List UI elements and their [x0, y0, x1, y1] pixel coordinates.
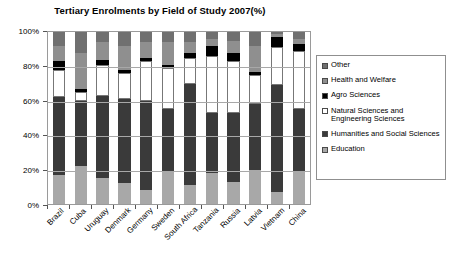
legend-label: Health and Welfare: [331, 76, 396, 84]
bar-segment: [293, 51, 305, 109]
bar-segment: [140, 190, 152, 204]
bar-segment: [271, 192, 283, 204]
x-label-slot: South Africa: [179, 206, 201, 266]
bars-layer: [48, 32, 310, 204]
bar-segment: [227, 41, 239, 53]
legend-item[interactable]: Health and Welfare: [322, 76, 441, 84]
y-tick-label: 40%: [23, 131, 39, 140]
bar-segment: [184, 84, 196, 185]
y-tick-label: 80%: [23, 61, 39, 70]
bar-segment: [75, 101, 87, 166]
bar-segment: [206, 32, 218, 39]
bar-segment: [162, 171, 174, 204]
bar-segment: [206, 173, 218, 204]
legend-label: Natural Sciences and Engineering Science…: [331, 107, 441, 123]
bar-segment: [271, 37, 283, 47]
chart-container: Tertiary Enrolments by Field of Study 20…: [0, 0, 466, 269]
x-axis-label-brazil: Brazil: [45, 207, 66, 228]
chart-legend: OtherHealth and WelfareAgro SciencesNatu…: [316, 55, 446, 180]
bar-slot: [70, 32, 92, 204]
bar-segment: [96, 32, 108, 42]
gridline: [48, 67, 310, 68]
legend-swatch-icon: [322, 147, 328, 153]
bar-slot: [113, 32, 135, 204]
y-tick-label: 20%: [23, 166, 39, 175]
bar-segment: [162, 32, 174, 42]
stacked-bar[interactable]: [184, 32, 196, 204]
y-tick-label: 0%: [27, 201, 39, 210]
stacked-bar[interactable]: [53, 32, 65, 204]
x-label-slot: Cuba: [69, 206, 91, 266]
legend-item[interactable]: Education: [322, 145, 441, 153]
bar-slot: [48, 32, 70, 204]
x-label-slot: China: [289, 206, 311, 266]
x-label-slot: Russia: [223, 206, 245, 266]
plot-area: [47, 31, 311, 205]
bar-segment: [184, 58, 196, 84]
y-axis: 0%20%40%60%80%100%: [0, 31, 43, 205]
bar-segment: [140, 101, 152, 190]
bar-segment: [96, 178, 108, 204]
legend-item[interactable]: Agro Sciences: [322, 91, 441, 99]
bar-segment: [53, 32, 65, 46]
bar-segment: [227, 182, 239, 204]
stacked-bar[interactable]: [96, 32, 108, 204]
bar-segment: [227, 53, 239, 62]
bar-segment: [293, 32, 305, 39]
stacked-bar[interactable]: [162, 32, 174, 204]
bar-segment: [140, 42, 152, 57]
bar-segment: [206, 56, 218, 113]
x-label-slot: Germany: [135, 206, 157, 266]
bar-segment: [53, 175, 65, 204]
bar-segment: [118, 32, 130, 46]
stacked-bar[interactable]: [118, 32, 130, 204]
legend-label: Education: [331, 145, 365, 153]
gridline: [48, 102, 310, 103]
bar-segment: [249, 170, 261, 204]
stacked-bar[interactable]: [293, 32, 305, 204]
bar-segment: [53, 46, 65, 61]
bar-slot: [92, 32, 114, 204]
x-label-slot: Denmark: [113, 206, 135, 266]
legend-item[interactable]: Natural Sciences and Engineering Science…: [322, 107, 441, 123]
bar-slot: [157, 32, 179, 204]
bar-segment: [75, 53, 87, 89]
legend-label: Other: [331, 61, 350, 69]
stacked-bar[interactable]: [140, 32, 152, 204]
stacked-bar[interactable]: [271, 32, 283, 204]
bar-slot: [223, 32, 245, 204]
bar-segment: [293, 109, 305, 171]
bar-slot: [179, 32, 201, 204]
legend-swatch-icon: [322, 108, 328, 114]
stacked-bar[interactable]: [227, 32, 239, 204]
bar-segment: [162, 109, 174, 171]
bar-segment: [53, 70, 65, 98]
legend-swatch-icon: [322, 131, 328, 137]
bar-segment: [140, 32, 152, 42]
legend-label: Agro Sciences: [331, 91, 380, 99]
bar-segment: [206, 46, 218, 56]
bar-segment: [53, 61, 65, 70]
legend-item[interactable]: Humanities and Social Sciences: [322, 130, 441, 138]
bar-segment: [162, 68, 174, 109]
stacked-bar[interactable]: [75, 32, 87, 204]
bar-segment: [184, 185, 196, 204]
bar-segment: [184, 42, 196, 52]
bar-segment: [206, 113, 218, 173]
legend-swatch-icon: [322, 63, 328, 69]
legend-label: Humanities and Social Sciences: [331, 130, 439, 138]
bar-slot: [288, 32, 310, 204]
y-tick-label: 100%: [19, 27, 39, 36]
bar-segment: [162, 42, 174, 64]
bar-slot: [201, 32, 223, 204]
stacked-bar[interactable]: [206, 32, 218, 204]
legend-item[interactable]: Other: [322, 61, 441, 69]
bar-segment: [249, 32, 261, 46]
x-label-slot: Latvia: [245, 206, 267, 266]
bar-slot: [266, 32, 288, 204]
bar-segment: [293, 171, 305, 204]
bar-segment: [227, 61, 239, 113]
legend-swatch-icon: [322, 78, 328, 84]
stacked-bar[interactable]: [249, 32, 261, 204]
bar-segment: [118, 73, 130, 99]
